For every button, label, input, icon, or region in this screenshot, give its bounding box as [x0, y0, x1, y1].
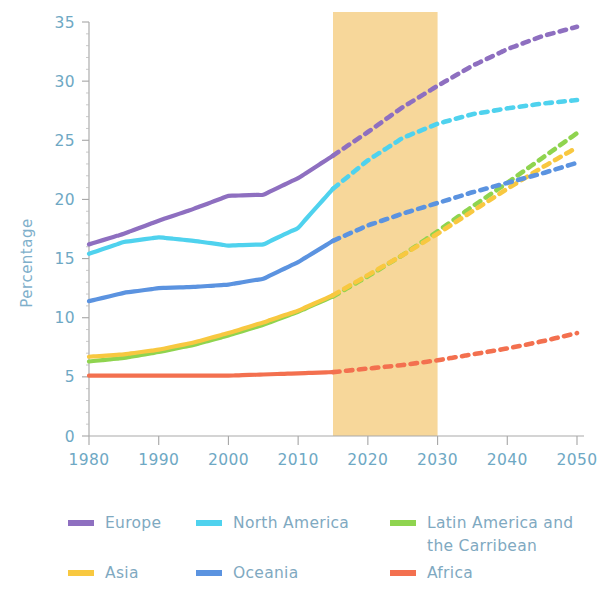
legend-item-asia[interactable]: Asia [68, 564, 139, 582]
x-tick-label-2040: 2040 [487, 451, 528, 469]
legend-item-north-america[interactable]: North America [196, 514, 349, 532]
x-axis-ticks [89, 436, 577, 445]
legend-label: Latin America and [427, 514, 573, 532]
legend-label: Oceania [233, 564, 299, 582]
x-axis-tick-labels: 19801990200020102020203020402050 [68, 451, 597, 469]
legend-item-europe[interactable]: Europe [68, 514, 161, 532]
series-line-historical [89, 241, 333, 301]
y-axis-tick-labels: 05101520253035 [54, 14, 75, 446]
legend-label: Europe [105, 514, 161, 532]
legend-item-africa[interactable]: Africa [390, 564, 473, 582]
chart-legend: EuropeNorth AmericaLatin America andthe … [68, 514, 573, 582]
line-chart: 05101520253035 1980199020002010202020302… [0, 0, 607, 595]
x-tick-label-2000: 2000 [208, 451, 249, 469]
legend-label: North America [233, 514, 349, 532]
x-tick-label-2030: 2030 [417, 451, 458, 469]
legend-item-oceania[interactable]: Oceania [196, 564, 299, 582]
series-line-historical [89, 372, 333, 376]
legend-label: Africa [427, 564, 473, 582]
y-axis-title: Percentage [18, 218, 36, 307]
y-tick-label-0: 0 [65, 428, 75, 446]
y-tick-label-35: 35 [54, 14, 75, 32]
y-tick-label-20: 20 [54, 191, 75, 209]
y-tick-label-10: 10 [54, 309, 75, 327]
x-tick-label-1980: 1980 [68, 451, 109, 469]
series-line-historical [89, 296, 333, 361]
y-tick-label-30: 30 [54, 73, 75, 91]
y-tick-label-15: 15 [54, 250, 75, 268]
x-tick-label-1990: 1990 [138, 451, 179, 469]
chart-container: 05101520253035 1980199020002010202020302… [0, 0, 607, 595]
x-tick-label-2010: 2010 [278, 451, 319, 469]
x-tick-label-2050: 2050 [556, 451, 597, 469]
legend-item-latin-america-and[interactable]: Latin America andthe Carribean [390, 514, 573, 555]
legend-label-line2: the Carribean [427, 537, 537, 555]
x-tick-label-2020: 2020 [347, 451, 388, 469]
series-line-historical [89, 189, 333, 254]
legend-label: Asia [105, 564, 139, 582]
y-tick-label-5: 5 [65, 368, 75, 386]
series-line-historical [89, 295, 333, 357]
y-tick-label-25: 25 [54, 132, 75, 150]
